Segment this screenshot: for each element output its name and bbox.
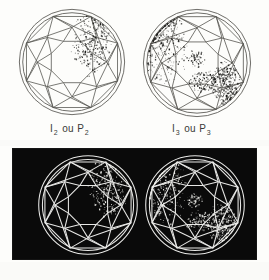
- inclusion-plot-layer: [149, 162, 237, 243]
- scan-texture-band-lower: [0, 262, 269, 280]
- caption-right-conjunction: ou P: [181, 123, 206, 134]
- inclusion-plot-layer: [147, 17, 241, 105]
- positive-panel: I2 ou P2 I3 ou P3: [0, 0, 269, 146]
- inclusion-cluster-center: [188, 193, 203, 207]
- caption-right: I3 ou P3: [172, 123, 212, 136]
- inclusion-cluster-center: [186, 50, 205, 67]
- diamond-svg-top-left: [16, 6, 128, 118]
- caption-left-conjunction: ou P: [59, 123, 84, 134]
- diamond-diagram-top-left: [16, 6, 128, 118]
- diamond-svg-bottom-right: [141, 152, 249, 258]
- diamond-diagram-top-right: [140, 6, 254, 120]
- negative-panel: [13, 149, 256, 259]
- crown-facet-network: [45, 162, 131, 248]
- diamond-diagram-bottom-left: [35, 152, 141, 258]
- caption-left-subscript-2: 2: [84, 129, 90, 136]
- diamond-svg-bottom-left: [35, 152, 141, 258]
- figure-root: I2 ou P2 I3 ou P3: [0, 0, 269, 280]
- diamond-svg-top-right: [140, 6, 254, 120]
- caption-left: I2 ou P2: [50, 123, 90, 136]
- caption-right-subscript-2: 3: [206, 129, 212, 136]
- diamond-diagram-bottom-right: [141, 152, 249, 258]
